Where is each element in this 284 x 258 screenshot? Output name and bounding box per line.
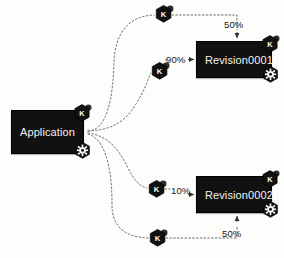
pod-node-label: K <box>161 10 167 19</box>
node-application[interactable]: Application K <box>11 110 84 154</box>
pod-node-k[interactable]: K <box>146 179 168 201</box>
pod-node-k[interactable]: K <box>153 4 175 26</box>
traffic-percent-50-top: 50% <box>224 19 243 30</box>
edge-application-to-pod-middle <box>88 73 151 131</box>
node-application-label: Application <box>12 126 75 138</box>
traffic-percent-90: 90% <box>166 54 185 65</box>
diagram-canvas: Application K <box>0 0 284 258</box>
k-icon[interactable]: K <box>259 34 281 56</box>
traffic-percent-10: 10% <box>171 185 190 196</box>
gear-icon[interactable] <box>260 65 281 86</box>
edge-application-to-pod-lower <box>88 133 147 188</box>
svg-text:K: K <box>267 175 273 184</box>
pod-node-label: K <box>157 67 163 76</box>
node-revision0001[interactable]: Revision0001 K <box>196 41 272 78</box>
gear-icon[interactable] <box>72 141 93 162</box>
traffic-percent-50-bottom: 50% <box>222 228 241 239</box>
svg-text:K: K <box>79 109 85 118</box>
svg-text:K: K <box>267 40 273 49</box>
k-icon[interactable]: K <box>71 103 93 125</box>
pod-node-label: K <box>154 185 160 194</box>
gear-icon[interactable] <box>260 200 281 221</box>
pod-node-label: K <box>155 234 161 243</box>
edge-application-to-pod-top <box>88 15 154 131</box>
node-revision0002[interactable]: Revision0002 K <box>196 176 272 213</box>
edge-application-to-pod-bottom <box>88 134 148 238</box>
k-icon[interactable]: K <box>259 169 281 191</box>
pod-node-k[interactable]: K <box>147 228 169 250</box>
